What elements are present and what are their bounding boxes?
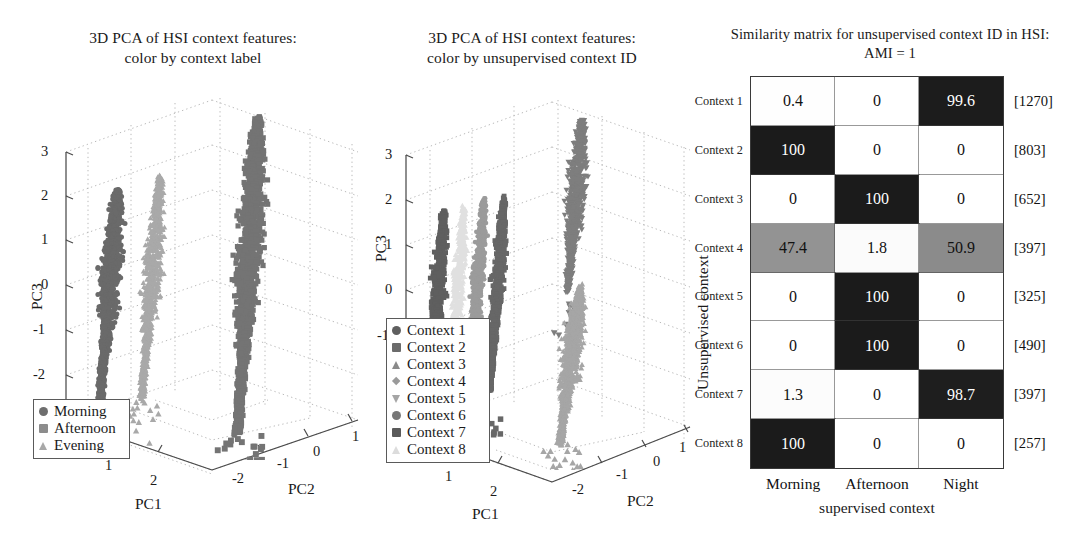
figure-canvas: 3D PCA of HSI context features: color by… bbox=[0, 0, 1092, 555]
matrix-cell[interactable]: 100Context 2 bbox=[751, 126, 835, 175]
circle-marker-icon bbox=[39, 407, 48, 416]
legend-item-label: Context 7 bbox=[407, 425, 466, 440]
legend-item-label: Evening bbox=[54, 438, 104, 453]
legend-item[interactable]: Context 1 bbox=[392, 322, 482, 339]
matrix-cell-value: 0 bbox=[957, 337, 965, 355]
pca-label-xaxis-title: PC1 bbox=[135, 495, 162, 513]
matrix-cell[interactable]: 0 bbox=[835, 126, 919, 175]
legend-item-label: Context 4 bbox=[407, 374, 466, 389]
matrix-cell-value: 0 bbox=[957, 141, 965, 159]
matrix-cell[interactable]: 0[803] bbox=[919, 126, 1003, 175]
matrix-cell-value: 0 bbox=[957, 435, 965, 453]
matrix-row-count: [803] bbox=[1014, 142, 1046, 159]
matrix-cell-value: 1.8 bbox=[867, 239, 887, 257]
legend-item-label: Context 2 bbox=[407, 340, 466, 355]
matrix-cell[interactable]: 0[325] bbox=[919, 273, 1003, 322]
panel-similarity-matrix: Similarity matrix for unsupervised conte… bbox=[688, 0, 1092, 555]
matrix-cell-value: 0 bbox=[873, 386, 881, 404]
y2-tick-m2: -2 bbox=[572, 481, 584, 498]
z-tick-0: 0 bbox=[41, 276, 48, 293]
matrix-cell[interactable]: 1.3Context 7 bbox=[751, 370, 835, 419]
matrix-cell[interactable]: 0Context 3 bbox=[751, 175, 835, 224]
matrix-xaxis-title: supervised context bbox=[750, 498, 1004, 518]
matrix-cell-value: 100 bbox=[781, 141, 805, 159]
legend-item[interactable]: Afternoon bbox=[39, 420, 122, 437]
diamond-marker-icon bbox=[392, 377, 401, 386]
z-tick-2: 2 bbox=[41, 187, 48, 204]
triangle-up-marker-icon bbox=[392, 360, 401, 369]
legend-unsupervised-context[interactable]: Context 1Context 2Context 3Context 4Cont… bbox=[386, 318, 490, 463]
pca-label-axes bbox=[0, 0, 372, 555]
matrix-row-label: Context 4 bbox=[695, 241, 743, 256]
legend-item[interactable]: Context 3 bbox=[392, 356, 482, 373]
legend-item[interactable]: Context 4 bbox=[392, 373, 482, 390]
matrix-row-label: Context 8 bbox=[695, 436, 743, 451]
legend-item[interactable]: Context 5 bbox=[392, 390, 482, 407]
matrix-cell-value: 0 bbox=[789, 337, 797, 355]
legend-item-label: Afternoon bbox=[54, 421, 116, 436]
triangle-up-marker-icon bbox=[392, 445, 401, 454]
matrix-cell-value: 0 bbox=[873, 92, 881, 110]
y2-tick-m1: -1 bbox=[616, 466, 628, 483]
matrix-cell[interactable]: 47.4Context 4 bbox=[751, 224, 835, 273]
matrix-cell[interactable]: 0Context 5 bbox=[751, 273, 835, 322]
matrix-yaxis-title: Unsupervised context bbox=[694, 255, 712, 390]
legend-item-label: Context 6 bbox=[407, 408, 466, 423]
legend-item-label: Context 1 bbox=[407, 323, 466, 338]
matrix-cell[interactable]: 0[257]Night bbox=[919, 419, 1003, 468]
y-tick-0: 0 bbox=[313, 443, 320, 460]
legend-item[interactable]: Morning bbox=[39, 403, 122, 420]
matrix-cell[interactable]: 100Context 8Morning bbox=[751, 419, 835, 468]
matrix-row-label: Context 1 bbox=[695, 94, 743, 109]
matrix-cell[interactable]: 99.6[1270] bbox=[919, 77, 1003, 126]
matrix-row-label: Context 2 bbox=[695, 143, 743, 158]
matrix-row-count: [397] bbox=[1014, 386, 1046, 403]
matrix-cell[interactable]: 0Context 6 bbox=[751, 321, 835, 370]
matrix-cell[interactable]: 0 bbox=[835, 77, 919, 126]
pca-label-yaxis-title: PC2 bbox=[288, 480, 315, 498]
matrix-cell-value: 47.4 bbox=[779, 239, 807, 257]
legend-item[interactable]: Context 2 bbox=[392, 339, 482, 356]
x-tick-1: 1 bbox=[105, 457, 112, 474]
matrix-cell[interactable]: 100 bbox=[835, 273, 919, 322]
matrix-cell[interactable]: 50.9[397] bbox=[919, 224, 1003, 273]
legend-item[interactable]: Evening bbox=[39, 437, 122, 454]
legend-item-label: Context 3 bbox=[407, 357, 466, 372]
y-tick-m2: -2 bbox=[232, 470, 244, 487]
pca-cluster-yaxis-title: PC2 bbox=[627, 492, 654, 510]
matrix-cell-value: 99.6 bbox=[947, 92, 975, 110]
legend-context-label[interactable]: MorningAfternoonEvening bbox=[33, 399, 130, 459]
panel-3-title: Similarity matrix for unsupervised conte… bbox=[694, 25, 1086, 62]
legend-item[interactable]: Context 7 bbox=[392, 424, 482, 441]
pca-label-svg bbox=[0, 0, 372, 555]
legend-item[interactable]: Context 6 bbox=[392, 407, 482, 424]
matrix-cell-value: 1.3 bbox=[783, 386, 803, 404]
matrix-cell[interactable]: 98.7[397] bbox=[919, 370, 1003, 419]
matrix-cell-value: 0 bbox=[957, 288, 965, 306]
matrix-cell-value: 100 bbox=[865, 337, 889, 355]
x2-tick-2: 2 bbox=[490, 483, 497, 500]
legend-item-label: Context 5 bbox=[407, 391, 466, 406]
matrix-row-count: [397] bbox=[1014, 240, 1046, 257]
matrix-cell-value: 100 bbox=[781, 435, 805, 453]
matrix-cell[interactable]: 0[490] bbox=[919, 321, 1003, 370]
x2-tick-1: 1 bbox=[445, 468, 452, 485]
matrix-cell[interactable]: 1.8 bbox=[835, 224, 919, 273]
legend-item[interactable]: Context 8 bbox=[392, 441, 482, 458]
circle-marker-icon bbox=[392, 411, 401, 420]
similarity-matrix-grid[interactable]: 0.4Context 1099.6[1270]100Context 200[80… bbox=[750, 76, 1004, 469]
matrix-row-label: Context 3 bbox=[695, 192, 743, 207]
y2-tick-1: 1 bbox=[679, 439, 686, 456]
pca-cluster-xaxis-title: PC1 bbox=[472, 505, 499, 523]
panel-pca-context-label: 3D PCA of HSI context features: color by… bbox=[0, 0, 372, 555]
matrix-cell[interactable]: 0Afternoon bbox=[835, 419, 919, 468]
matrix-cell[interactable]: 0.4Context 1 bbox=[751, 77, 835, 126]
matrix-cell[interactable]: 100 bbox=[835, 321, 919, 370]
matrix-cell-value: 0 bbox=[789, 288, 797, 306]
matrix-column-label: Afternoon bbox=[835, 475, 919, 493]
matrix-cell[interactable]: 100 bbox=[835, 175, 919, 224]
matrix-cell[interactable]: 0[652] bbox=[919, 175, 1003, 224]
z-tick-3: 3 bbox=[41, 143, 48, 160]
matrix-cell[interactable]: 0 bbox=[835, 370, 919, 419]
pca-cluster-svg bbox=[372, 0, 688, 555]
